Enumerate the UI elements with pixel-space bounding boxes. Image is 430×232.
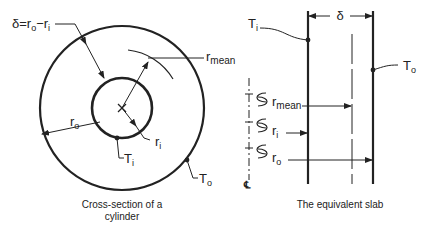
cylinder-cross-section: δ=ro−ri rmean ro ri Ti To Cross-section …	[12, 16, 235, 222]
break-symbols	[257, 93, 267, 158]
mean-radius-arrow	[122, 62, 148, 108]
outer-temp-leader	[187, 160, 198, 178]
cylinder-caption-line1: Cross-section of a	[82, 199, 163, 210]
slab-inner-radius-label: ri	[272, 123, 278, 140]
outer-temp-label: To	[199, 171, 212, 188]
inner-radius-arrow	[122, 108, 136, 126]
slab-inner-temp-label: Ti	[248, 16, 258, 33]
equivalent-slab: δ Ti To ℄ rmean ri ro The equi	[243, 8, 416, 210]
mean-radius-arc	[128, 50, 173, 79]
slab-delta-label: δ	[336, 8, 343, 23]
mean-radius-label: rmean	[206, 49, 235, 66]
inner-temp-leader	[117, 138, 124, 158]
delta-dimension-arrow	[86, 44, 104, 78]
centerline-symbol: ℄	[243, 179, 251, 190]
slab-inner-temp-leader	[260, 28, 308, 40]
slab-outer-radius-label: ro	[272, 150, 281, 167]
diagram-canvas: δ=ro−ri rmean ro ri Ti To Cross-section …	[0, 0, 430, 232]
slab-mean-radius-label: rmean	[272, 94, 301, 111]
inner-temp-label: Ti	[124, 151, 134, 168]
slab-outer-temp-point	[371, 68, 376, 73]
cylinder-caption-line2: cylinder	[105, 211, 140, 222]
slab-outer-temp-label: To	[403, 58, 416, 75]
outer-radius-label: ro	[70, 114, 79, 131]
delta-formula-label: δ=ro−ri	[12, 16, 50, 33]
slab-outer-temp-leader	[373, 65, 398, 70]
slab-caption: The equivalent slab	[297, 199, 384, 210]
slab-inner-temp-point	[306, 38, 311, 43]
delta-leader-line	[55, 24, 86, 44]
inner-radius-label: ri	[155, 134, 161, 151]
